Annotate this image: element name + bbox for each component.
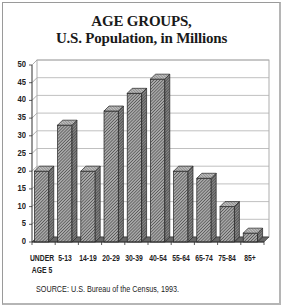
bar <box>150 74 169 242</box>
bar <box>127 88 146 242</box>
y-tick-label: 30 <box>11 130 26 140</box>
bar <box>58 120 77 242</box>
y-tick-label: 15 <box>11 183 26 193</box>
y-tick-label: 35 <box>11 112 26 122</box>
bar <box>243 228 262 242</box>
y-tick-label: 40 <box>11 94 26 104</box>
y-tick-label: 5 <box>11 218 26 228</box>
y-tick-label: 10 <box>11 201 26 211</box>
y-tick-label: 25 <box>11 148 26 158</box>
bar <box>34 166 53 242</box>
bar <box>220 202 239 242</box>
y-tick-label: 20 <box>11 165 26 175</box>
x-tick-label: 85+ <box>234 253 266 263</box>
y-tick-label: 50 <box>11 59 26 69</box>
x-tick-label: AGE 5 <box>26 265 58 275</box>
bar <box>81 166 100 242</box>
y-tick-label: 0 <box>11 236 26 246</box>
bar <box>174 166 193 242</box>
y-tick-label: 45 <box>11 77 26 87</box>
bar <box>104 106 123 242</box>
bar <box>197 173 216 242</box>
source-note: SOURCE: U.S. Bureau of the Census, 1993. <box>36 284 179 294</box>
